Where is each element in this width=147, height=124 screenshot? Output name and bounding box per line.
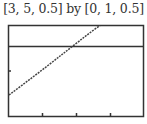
plot-frame [9,26,144,117]
function-curve [9,26,100,96]
plot-area [0,0,147,124]
